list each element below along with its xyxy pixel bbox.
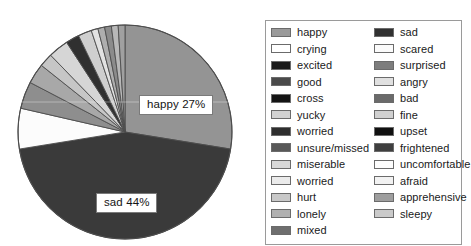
legend-swatch-icon (271, 209, 291, 218)
legend-item-label: happy (297, 26, 327, 38)
legend-item-label: sleepy (400, 208, 432, 220)
legend-swatch-icon (271, 61, 291, 70)
legend-item: mixed (271, 222, 375, 239)
legend-item-label: good (297, 76, 322, 88)
legend-swatch-icon (271, 77, 291, 86)
legend-swatch-icon (271, 44, 291, 53)
legend-item-label: miserable (297, 158, 345, 170)
legend-item: yucky (271, 107, 375, 124)
legend-swatch-icon (271, 160, 291, 169)
pie-label-sad: sad 44% (96, 193, 157, 213)
legend-item: worried (271, 123, 375, 140)
legend-item: apprehensive (374, 189, 462, 206)
legend-swatch-icon (271, 143, 291, 152)
legend-item-label: sad (400, 26, 418, 38)
pie-slice (125, 25, 232, 149)
legend-item: good (271, 74, 375, 91)
legend-item: miserable (271, 156, 375, 173)
legend-swatch-icon (271, 193, 291, 202)
legend-swatch-icon (374, 61, 394, 70)
legend-item: sleepy (374, 206, 462, 223)
legend-item: scared (374, 41, 462, 58)
legend-swatch-icon (374, 160, 394, 169)
legend-swatch-icon (271, 226, 291, 235)
legend-item: afraid (374, 173, 462, 190)
pie-plot-area: happy 27% sad 44% (0, 0, 258, 246)
pie-slice (19, 132, 230, 239)
legend-swatch-icon (374, 110, 394, 119)
legend-item-label: scared (400, 43, 433, 55)
legend-item-label: fine (400, 109, 418, 121)
legend-swatch-icon (374, 28, 394, 37)
legend-swatch-icon (271, 110, 291, 119)
legend-item: cross (271, 90, 375, 107)
legend-column-right: sadscaredsurprisedangrybadfineupsetfrigh… (374, 24, 462, 222)
legend-swatch-icon (271, 28, 291, 37)
legend-item-label: angry (400, 76, 428, 88)
legend-swatch-icon (271, 176, 291, 185)
legend-item: unsure/missed (271, 140, 375, 157)
legend-item: angry (374, 74, 462, 91)
legend-item: crying (271, 41, 375, 58)
legend-item: hurt (271, 189, 375, 206)
legend-swatch-icon (374, 127, 394, 136)
legend-item-label: worried (297, 175, 333, 187)
legend-swatch-icon (271, 94, 291, 103)
legend-item: frightened (374, 140, 462, 157)
legend-item: upset (374, 123, 462, 140)
pie-label-happy: happy 27% (139, 95, 213, 115)
legend-item-label: bad (400, 92, 419, 104)
legend-item: surprised (374, 57, 462, 74)
legend-item: sad (374, 24, 462, 41)
legend-swatch-icon (374, 209, 394, 218)
legend-item-label: hurt (297, 191, 316, 203)
legend-item: happy (271, 24, 375, 41)
legend-item: bad (374, 90, 462, 107)
legend-item-label: upset (400, 125, 427, 137)
legend-item-label: excited (297, 59, 332, 71)
legend-item: worried (271, 173, 375, 190)
legend-item-label: crying (297, 43, 327, 55)
legend-column-left: happycryingexcitedgoodcrossyuckyworriedu… (271, 24, 375, 239)
legend-item-label: yucky (297, 109, 325, 121)
legend-item-label: uncomfortable (400, 158, 470, 170)
legend-swatch-icon (374, 176, 394, 185)
legend-swatch-icon (374, 44, 394, 53)
legend-swatch-icon (374, 143, 394, 152)
legend-item-label: cross (297, 92, 324, 104)
legend-item-label: afraid (400, 175, 428, 187)
legend-item-label: worried (297, 125, 333, 137)
legend-item-label: apprehensive (400, 191, 467, 203)
legend-item-label: lonely (297, 208, 326, 220)
legend-item-label: mixed (297, 224, 327, 236)
legend-swatch-icon (374, 94, 394, 103)
legend-item: uncomfortable (374, 156, 462, 173)
pie-chart-figure: happy 27% sad 44% happycryingexcitedgood… (0, 0, 471, 246)
legend-item-label: unsure/missed (297, 142, 369, 154)
legend-swatch-icon (374, 77, 394, 86)
legend-item-label: frightened (400, 142, 449, 154)
legend-swatch-icon (374, 193, 394, 202)
legend-item-label: surprised (400, 59, 446, 71)
legend-item: lonely (271, 206, 375, 223)
legend-swatch-icon (271, 127, 291, 136)
legend-item: excited (271, 57, 375, 74)
legend: happycryingexcitedgoodcrossyuckyworriedu… (265, 20, 462, 245)
legend-item: fine (374, 107, 462, 124)
